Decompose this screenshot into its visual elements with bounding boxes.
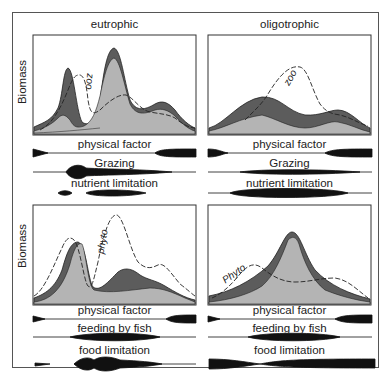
y-axis-label-top: Biomass bbox=[16, 52, 28, 112]
bar-label-food-limitation-bl: food limitation bbox=[33, 344, 196, 356]
bar-label-grazing-tr: Grazing bbox=[208, 157, 371, 169]
bar-label-physical-factor-tl: physical factor bbox=[33, 138, 196, 150]
bar-label-grazing-tl: Grazing bbox=[33, 157, 196, 169]
bar-label-food-limitation-br: food limitation bbox=[208, 344, 371, 356]
bar-label-nutrient-limitation-tr: nutrient limitation bbox=[208, 177, 371, 189]
bar-label-feeding-by-fish-br: feeding by fish bbox=[208, 322, 371, 334]
bar-label-nutrient-limitation-tl: nutrient limitation bbox=[33, 177, 196, 189]
panel-title-oligotrophic: oligotrophic bbox=[208, 18, 371, 30]
bar-label-feeding-by-fish-bl: feeding by fish bbox=[33, 322, 196, 334]
bar-label-physical-factor-bl: physical factor bbox=[33, 304, 196, 316]
panel-bottom-left-plot bbox=[33, 205, 196, 305]
panel-title-eutrophic: eutrophic bbox=[33, 18, 196, 30]
panel-bottom-right-plot bbox=[208, 205, 371, 305]
bar-label-physical-factor-tr: physical factor bbox=[208, 138, 371, 150]
panel-eutrophic-plot bbox=[33, 35, 196, 135]
y-axis-label-bottom: Biomass bbox=[16, 216, 28, 276]
bar-label-physical-factor-br: physical factor bbox=[208, 304, 371, 316]
curve-label-zoo-eutrophic: zoo bbox=[84, 73, 96, 90]
